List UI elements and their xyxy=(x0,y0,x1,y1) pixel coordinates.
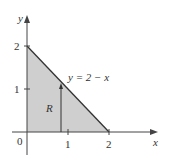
y-axis-arrow-icon xyxy=(24,15,30,23)
x-axis-label: x xyxy=(152,136,158,148)
y-axis-label: y xyxy=(17,12,23,24)
y-tick-label-1: 1 xyxy=(14,83,20,95)
region-diagram: y x 0 1 2 1 2 y = 2 − x R xyxy=(0,0,169,161)
origin-label: 0 xyxy=(17,135,23,147)
y-tick-label-2: 2 xyxy=(14,40,20,52)
x-tick-label-1: 1 xyxy=(65,138,71,150)
x-tick-label-2: 2 xyxy=(106,138,112,150)
x-axis-arrow-icon xyxy=(150,129,158,135)
region-label: R xyxy=(45,102,53,114)
curve-label: y = 2 − x xyxy=(67,71,109,83)
